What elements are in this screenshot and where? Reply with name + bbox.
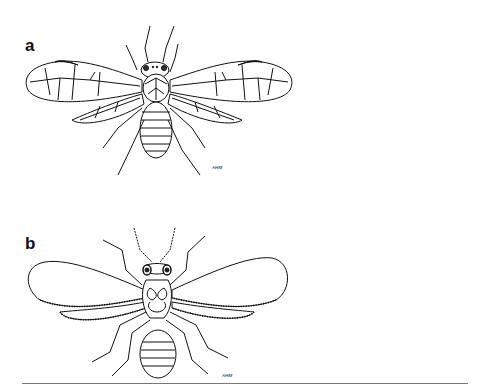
insect-illustration-b [0, 0, 480, 388]
artist-signature-b: ᴀʜᴍ [222, 372, 232, 378]
bottom-rule [22, 383, 468, 384]
